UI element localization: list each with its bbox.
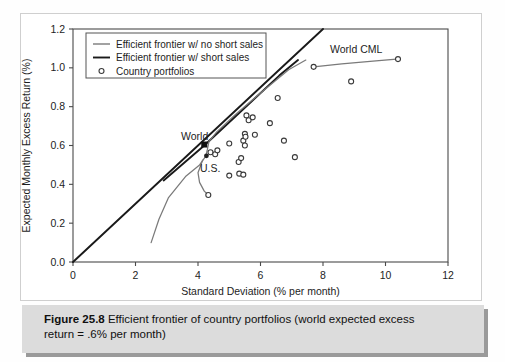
- y-axis-title: Expected Monthly Excess Return (%): [20, 59, 32, 233]
- y-tick-label: 0.2: [50, 217, 65, 229]
- x-tick-label: 4: [195, 269, 201, 281]
- country-portfolio-point: [267, 121, 272, 126]
- legend-label: Efficient frontier w/ no short sales: [116, 39, 263, 50]
- country-portfolio-point: [239, 156, 244, 161]
- country-portfolio-point: [281, 138, 286, 143]
- annotation-us: U.S.: [200, 162, 220, 174]
- x-tick-label: 12: [442, 269, 454, 281]
- x-tick-label: 2: [133, 269, 139, 281]
- country-portfolio-point: [227, 141, 232, 146]
- world-portfolio-marker: [201, 142, 207, 148]
- us-portfolio-marker: [204, 153, 209, 158]
- caption-line-2: return = .6% per month): [44, 327, 470, 342]
- country-portfolio-point: [244, 113, 249, 118]
- legend-label: Country portfolios: [116, 66, 194, 77]
- legend-label: Efficient frontier w/ short sales: [116, 52, 249, 63]
- plot-area: 0.00.20.40.60.81.01.2024681012Standard D…: [0, 0, 505, 305]
- country-portfolio-point: [243, 134, 248, 139]
- caption-shadow-right: [484, 309, 488, 357]
- country-portfolio-point: [206, 193, 211, 198]
- caption-line-1: Figure 25.8 Efficient frontier of countr…: [44, 312, 470, 327]
- country-portfolio-point: [250, 115, 255, 120]
- country-portfolio-point: [241, 172, 246, 177]
- country-portfolio-point: [349, 79, 354, 84]
- series-line-upper-flat-frontier-to-rightmost: [314, 59, 397, 67]
- x-tick-label: 6: [258, 269, 264, 281]
- caption-body: Efficient frontier of country portfolios…: [108, 313, 415, 325]
- y-tick-label: 0.8: [50, 100, 65, 112]
- annotation-world-cml: World CML: [330, 43, 382, 55]
- x-tick-label: 10: [380, 269, 392, 281]
- series-line-efficient-frontier-w-no-short-sales: [151, 60, 306, 243]
- legend-layer: Efficient frontier w/ no short salesEffi…: [86, 33, 266, 78]
- country-portfolio-point: [252, 132, 257, 137]
- annotation-world: World: [181, 130, 208, 142]
- country-portfolio-point: [215, 148, 220, 153]
- caption-shadow-bottom: [26, 353, 488, 357]
- figure-caption: Figure 25.8 Efficient frontier of countr…: [22, 305, 484, 353]
- y-tick-label: 1.2: [50, 23, 65, 35]
- country-portfolio-point: [275, 95, 280, 100]
- country-portfolio-point: [311, 64, 316, 69]
- y-tick-label: 0.4: [50, 178, 65, 190]
- y-tick-label: 0.6: [50, 139, 65, 151]
- country-portfolio-point: [227, 173, 232, 178]
- x-tick-label: 8: [320, 269, 326, 281]
- chart-svg: 0.00.20.40.60.81.01.2024681012Standard D…: [0, 0, 505, 305]
- legend-marker-swatch: [99, 69, 104, 74]
- y-tick-label: 1.0: [50, 61, 65, 73]
- country-portfolio-point: [292, 155, 297, 160]
- caption-number: Figure 25.8: [44, 313, 105, 325]
- x-axis-title: Standard Deviation (% per month): [181, 285, 340, 297]
- country-portfolio-point: [396, 57, 401, 62]
- y-tick-label: 0.0: [50, 256, 65, 268]
- figure-25-8: 0.00.20.40.60.81.01.2024681012Standard D…: [0, 0, 505, 362]
- country-portfolio-point: [242, 143, 247, 148]
- x-tick-label: 0: [70, 269, 76, 281]
